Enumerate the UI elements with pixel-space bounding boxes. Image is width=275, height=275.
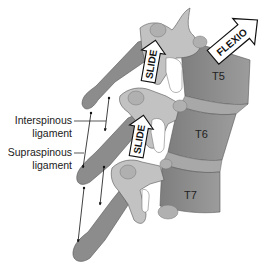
vertebra-label-t6: T6: [195, 128, 208, 140]
vertebrae-diagram: FLEXIO SLIDE SLIDE T5 T6 T7 Interspinous…: [0, 0, 275, 275]
line-anchor: [83, 187, 85, 189]
interspinous-line-1: [105, 98, 109, 131]
line-anchor: [90, 112, 92, 114]
facet: [173, 100, 187, 112]
facet: [158, 205, 178, 219]
t5-t6-foramen: [166, 58, 182, 93]
facet: [150, 23, 166, 37]
vertebra-label-t5: T5: [212, 70, 225, 82]
interspinous-label-line1: Interspinous: [15, 114, 72, 126]
t7-foramen: [142, 189, 149, 212]
facet: [160, 159, 172, 169]
facet: [193, 36, 207, 48]
supraspinous-label-line2: ligament: [32, 159, 72, 171]
interspinous-label-line2: ligament: [32, 127, 72, 139]
line-anchor: [103, 166, 105, 168]
supraspinous-label-line1: Supraspinous: [8, 146, 72, 158]
line-anchor: [108, 97, 110, 99]
vertebra-label-t7: T7: [184, 189, 197, 201]
facet: [128, 91, 144, 105]
supraspinous-line-2: [78, 188, 84, 242]
facet: [120, 165, 136, 179]
